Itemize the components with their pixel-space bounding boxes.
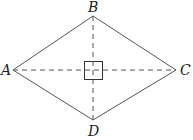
rhombus-outline — [13, 16, 176, 120]
vertex-label-b: B — [87, 0, 98, 15]
vertex-label-a: A — [0, 62, 11, 78]
rhombus-diagram: A B C D — [0, 0, 193, 140]
vertex-label-d: D — [87, 123, 99, 139]
vertex-label-c: C — [180, 62, 191, 78]
